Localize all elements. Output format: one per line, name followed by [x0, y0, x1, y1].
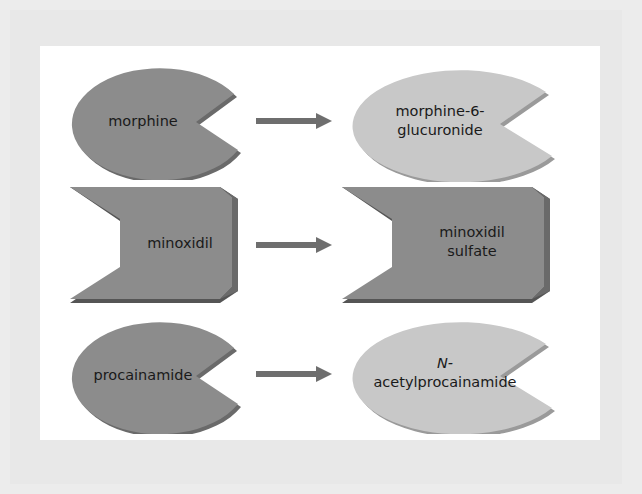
- product-label: minoxidil sulfate: [402, 223, 542, 261]
- procainamide-shape: procainamide: [68, 318, 248, 434]
- n-acetylprocainamide-shape: N- acetylprocainamide: [340, 318, 562, 434]
- morphine-shape: morphine: [68, 64, 248, 180]
- minoxidil-shape: minoxidil: [70, 187, 250, 307]
- right-arrow-icon: [256, 113, 332, 133]
- product-label: morphine-6- glucuronide: [340, 102, 540, 140]
- morphine-6-glucuronide-shape: morphine-6- glucuronide: [340, 66, 562, 182]
- substrate-label: minoxidil: [130, 234, 230, 253]
- substrate-label: procainamide: [68, 366, 218, 385]
- minoxidil-sulfate-shape: minoxidil sulfate: [342, 187, 562, 307]
- right-arrow-icon: [256, 237, 332, 257]
- product-label: N- acetylprocainamide: [340, 354, 550, 392]
- substrate-label: morphine: [68, 112, 218, 131]
- right-arrow-icon: [256, 366, 332, 386]
